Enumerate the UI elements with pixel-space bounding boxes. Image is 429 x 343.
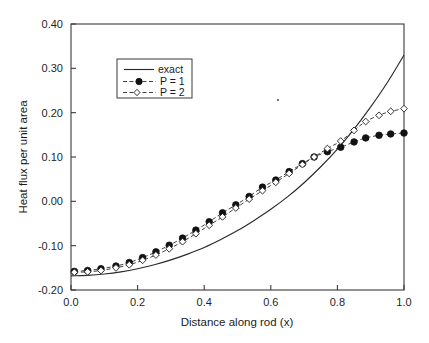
y-tick-label: 0.10	[42, 151, 63, 163]
x-tick-label: 0.8	[330, 296, 345, 308]
heat-flux-line-chart: 0.00.20.40.60.81.0 -0.20-0.100.000.100.2…	[0, 0, 429, 343]
data-point	[401, 130, 408, 137]
data-point	[387, 108, 394, 115]
scan-speck	[277, 99, 279, 101]
y-tick-label: -0.10	[38, 240, 63, 252]
y-tick-label: 0.40	[42, 18, 63, 30]
y-tick-label: 0.20	[42, 107, 63, 119]
series-line	[74, 133, 404, 271]
data-point	[401, 105, 408, 112]
data-point	[387, 131, 394, 138]
data-point	[376, 112, 383, 119]
x-tick-label: 0.2	[130, 296, 145, 308]
data-point	[351, 139, 358, 146]
legend-marker-p1	[136, 78, 142, 84]
y-tick-label: 0.00	[42, 195, 63, 207]
y-axis-title: Heat flux per unit area	[17, 100, 29, 214]
x-tick-label: 1.0	[396, 296, 411, 308]
x-tick-label: 0.6	[263, 296, 278, 308]
data-point	[376, 132, 383, 139]
y-tick-label: 0.30	[42, 62, 63, 74]
legend-label-p2: P = 2	[160, 86, 185, 98]
series-p-1	[71, 130, 407, 275]
x-axis-tick-labels: 0.00.20.40.60.81.0	[63, 296, 411, 308]
x-tick-label: 0.0	[63, 296, 78, 308]
chart-figure: 0.00.20.40.60.81.0 -0.20-0.100.000.100.2…	[0, 0, 429, 343]
y-axis-tick-labels: -0.20-0.100.000.100.200.300.40	[38, 18, 63, 296]
data-point	[362, 118, 369, 125]
data-point	[337, 138, 344, 145]
x-axis-title: Distance along rod (x)	[181, 316, 294, 328]
legend-label-exact: exact	[158, 63, 183, 75]
y-tick-label: -0.20	[38, 284, 63, 296]
y-axis-ticks	[71, 24, 76, 290]
x-axis-ticks	[71, 285, 404, 290]
series-p-2	[71, 105, 407, 275]
data-point	[362, 135, 369, 142]
chart-legend: exact P = 1 P = 2	[117, 59, 192, 98]
x-tick-label: 0.4	[197, 296, 212, 308]
